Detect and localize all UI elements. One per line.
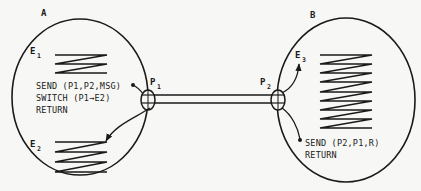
process-a: A E 1 SEND (P1,P2,MSG) SWITCH (P1→E2) RE…: [12, 8, 148, 175]
port-p2: P 2: [260, 77, 285, 110]
send-b-dot: [298, 138, 302, 142]
port-p1: P 1: [141, 77, 161, 110]
p2-to-e3-arrow: [282, 64, 299, 93]
code-switch-a: SWITCH (P1→E2): [36, 93, 110, 103]
port-p1-sub: 1: [157, 83, 161, 91]
process-a-label: A: [41, 8, 47, 18]
process-diagram: A E 1 SEND (P1,P2,MSG) SWITCH (P1→E2) RE…: [0, 0, 421, 191]
port-p1-label: P: [150, 77, 156, 87]
process-b-label: B: [310, 10, 316, 20]
entry-e3-label: E: [295, 50, 300, 60]
entry-e3-sub: 3: [302, 56, 306, 64]
process-b: B E 3 SEND (P2,P1,R) RETURN: [277, 10, 415, 182]
port-p2-label: P: [260, 77, 266, 87]
process-b-boundary: [277, 18, 415, 182]
code-return-a: RETURN: [36, 105, 68, 115]
code-send-b: SEND (P2,P1,R): [305, 138, 379, 148]
code-return-b: RETURN: [305, 150, 337, 160]
entry-e2-sub: 2: [37, 145, 41, 153]
entry-e1-code-zigzag: [55, 55, 107, 73]
entry-e2-code-zigzag: [55, 142, 107, 172]
entry-e1-label: E: [30, 46, 35, 56]
port-p2-sub: 2: [267, 83, 271, 91]
code-send-a: SEND (P1,P2,MSG): [36, 81, 121, 91]
entry-e1-sub: 1: [37, 52, 41, 60]
entry-e3-code-zigzag: [320, 55, 372, 128]
entry-e2-label: E: [30, 139, 35, 149]
send-b-link: [282, 108, 300, 139]
channel-p1-p2: [150, 95, 276, 103]
send-a-link: [133, 85, 143, 94]
